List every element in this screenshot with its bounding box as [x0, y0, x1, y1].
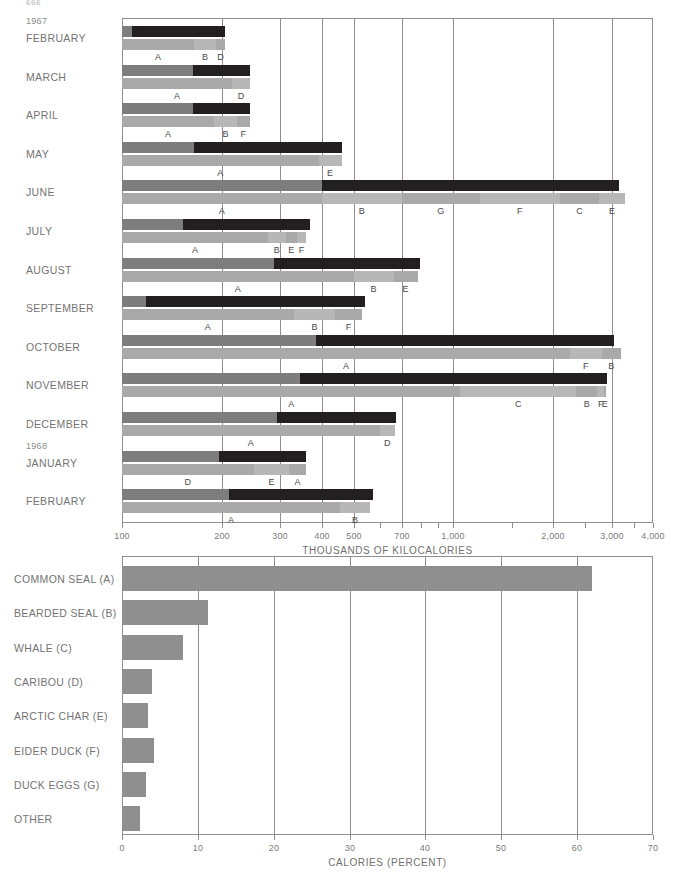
segment-letter-E: E [602, 399, 608, 409]
species-segment-A [289, 464, 305, 475]
upper-bar-yield-segment [193, 65, 250, 76]
upper-bar-effort-segment [122, 219, 183, 230]
bottom-axis-label-10: 10 [193, 843, 203, 853]
species-bar [122, 635, 183, 660]
axis-label-2000: 2,000 [541, 531, 565, 541]
species-segment-E [599, 193, 625, 204]
axis-label-200: 200 [214, 531, 230, 541]
bottom-gridline-30 [350, 556, 351, 835]
lower-bar [122, 464, 306, 475]
upper-bar-effort-segment [122, 26, 132, 37]
species-segment-D [232, 78, 250, 89]
species-segment-A [122, 386, 460, 397]
bar-row: ABD [0, 26, 677, 64]
species-segment-B [576, 386, 597, 397]
species-segment-A [122, 348, 570, 359]
segment-letter-B: B [311, 322, 317, 332]
bottom-axis-title: CALORIES (PERCENT) [328, 857, 447, 868]
segment-letter-B: B [222, 129, 228, 139]
lower-bar [122, 271, 418, 282]
month-label: FEBRUARY [26, 495, 86, 507]
segment-letter-B: B [371, 284, 377, 294]
species-segment-G [402, 193, 480, 204]
segment-letter-A: A [343, 361, 349, 371]
species-segment-A [122, 155, 319, 166]
month-label: JULY [26, 225, 52, 237]
bottom-axis-tick-60 [577, 835, 578, 840]
species-segment-E [286, 232, 297, 243]
species-segment-A [122, 39, 194, 50]
lower-bar [122, 78, 250, 89]
bottom-axis-tick-30 [350, 835, 351, 840]
axis-label-3000: 3,000 [600, 531, 624, 541]
species-bar [122, 669, 152, 694]
species-label: OTHER [14, 813, 53, 825]
species-label: BEARDED SEAL (B) [14, 607, 117, 619]
year-label: 1968 [26, 441, 47, 451]
species-segment-B [354, 271, 394, 282]
month-label: OCTOBER [26, 341, 80, 353]
segment-letter-C: C [515, 399, 522, 409]
species-segment-A [122, 116, 214, 127]
axis-label-700: 700 [394, 531, 410, 541]
bar-row: ABE [0, 258, 677, 296]
month-label: APRIL [26, 109, 58, 121]
segment-letter-A: A [155, 52, 161, 62]
segment-letter-B: B [202, 52, 208, 62]
species-label: COMMON SEAL (A) [14, 573, 115, 585]
bar-row: AB [0, 489, 677, 527]
segment-letter-A: A [217, 168, 223, 178]
upper-bar [122, 26, 225, 37]
species-segment-F [480, 193, 561, 204]
month-label: JUNE [26, 186, 55, 198]
species-segment-E [604, 386, 606, 397]
axis-label-100: 100 [114, 531, 130, 541]
bottom-axis-tick-50 [501, 835, 502, 840]
bottom-axis-tick-10 [198, 835, 199, 840]
bar-row: AE [0, 142, 677, 180]
upper-bar-effort-segment [122, 412, 277, 423]
segment-letter-E: E [288, 245, 294, 255]
bottom-axis-tick-20 [274, 835, 275, 840]
segment-letter-E: E [269, 477, 275, 487]
species-bar [122, 738, 154, 763]
bottom-axis-tick-0 [122, 835, 123, 840]
upper-bar-effort-segment [122, 373, 300, 384]
upper-bar-effort-segment [122, 335, 316, 346]
segment-letter-A: A [248, 438, 254, 448]
bottom-gridline-20 [274, 556, 275, 835]
upper-bar [122, 489, 373, 500]
species-segment-D [122, 464, 254, 475]
upper-bar-effort-segment [122, 103, 193, 114]
bottom-axis-label-70: 70 [648, 843, 658, 853]
segment-letter-D: D [384, 438, 391, 448]
lower-bar [122, 386, 606, 397]
bar-row: AFB [0, 335, 677, 373]
upper-bar [122, 373, 607, 384]
bar-row: AD [0, 65, 677, 103]
segment-letter-B: B [352, 515, 358, 525]
lower-bar [122, 155, 342, 166]
species-bar [122, 600, 208, 625]
upper-bar [122, 412, 396, 423]
bar-row: ABF [0, 296, 677, 334]
species-segment-F [297, 232, 307, 243]
bottom-axis-label-60: 60 [572, 843, 582, 853]
species-segment-B [602, 348, 621, 359]
year-label: 1967 [26, 16, 47, 26]
species-segment-B [322, 193, 403, 204]
month-label: SEPTEMBER [26, 302, 94, 314]
species-segment-E [394, 271, 418, 282]
species-segment-D [380, 425, 395, 436]
upper-bar [122, 451, 306, 462]
segment-letter-A: A [192, 245, 198, 255]
calorie-share-chart: COMMON SEAL (A)BEARDED SEAL (B)WHALE (C)… [0, 545, 677, 880]
species-segment-C [560, 193, 599, 204]
upper-bar-yield-segment [183, 219, 310, 230]
upper-bar-effort-segment [122, 489, 229, 500]
species-label: EIDER DUCK (F) [14, 745, 100, 757]
bottom-axis-label-50: 50 [496, 843, 506, 853]
bottom-gridline-60 [577, 556, 578, 835]
species-segment-E [319, 155, 342, 166]
lower-bar [122, 116, 250, 127]
